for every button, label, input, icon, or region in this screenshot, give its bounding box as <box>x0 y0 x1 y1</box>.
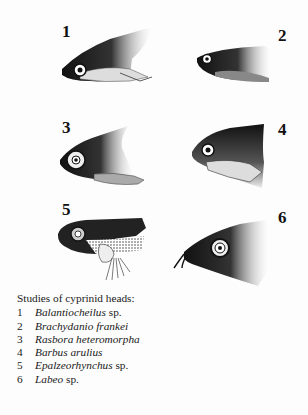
caption-item-number: 4 <box>17 346 35 359</box>
caption-item-2: 2 Brachydanio frankei <box>17 320 140 333</box>
caption-item-4: 4 Barbus arulius <box>17 346 140 359</box>
fish-head-illustration-6 <box>170 218 274 288</box>
figure-caption: Studies of cyprinid heads: 1 Balantioche… <box>17 292 140 386</box>
species-name: Epalzeorhynchus <box>35 359 113 371</box>
species-suffix: sp. <box>63 373 79 385</box>
species-name: Labeo <box>35 373 63 385</box>
fish-head-illustration-3 <box>58 124 152 188</box>
caption-item-3: 3 Rasbora heteromorpha <box>17 333 140 346</box>
caption-item-number: 2 <box>17 320 35 333</box>
caption-item-number: 6 <box>17 373 35 386</box>
species-name: Brachydanio frankei <box>35 320 128 332</box>
species-suffix: sp. <box>106 306 122 318</box>
figure-number-2: 2 <box>278 26 287 46</box>
fish-head-illustration-1 <box>60 25 160 87</box>
caption-item-5: 5 Epalzeorhynchus sp. <box>17 359 140 372</box>
page: 1 2 3 4 <box>0 0 308 415</box>
caption-item-number: 5 <box>17 359 35 372</box>
caption-title: Studies of cyprinid heads: <box>17 292 140 305</box>
caption-item-1: 1 Balantiocheilus sp. <box>17 306 140 319</box>
species-suffix: sp. <box>113 359 129 371</box>
fish-head-illustration-2 <box>195 42 275 84</box>
fish-head-illustration-5 <box>56 214 156 282</box>
fish-head-illustration-4 <box>190 122 270 190</box>
species-name: Barbus arulius <box>35 346 102 358</box>
figure-number-4: 4 <box>278 120 287 140</box>
species-name: Rasbora heteromorpha <box>35 333 140 345</box>
species-name: Balantiocheilus <box>35 306 106 318</box>
caption-item-number: 3 <box>17 333 35 346</box>
caption-item-6: 6 Labeo sp. <box>17 373 140 386</box>
figure-number-6: 6 <box>278 208 287 228</box>
caption-item-number: 1 <box>17 306 35 319</box>
